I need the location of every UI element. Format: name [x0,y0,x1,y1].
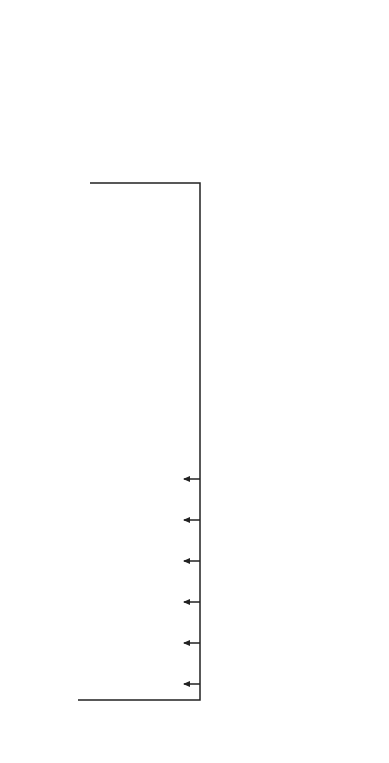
connectors [0,0,389,763]
diagram [0,0,389,763]
